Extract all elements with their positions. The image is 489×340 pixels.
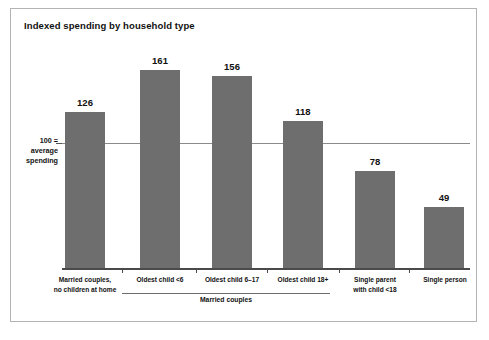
chart-screenshot: Indexed spending by household type 100 =… bbox=[0, 0, 489, 340]
category-label-line: Oldest child 6–17 bbox=[197, 275, 267, 285]
axis-tick bbox=[267, 268, 268, 273]
axis-tick bbox=[196, 268, 197, 273]
category-label-line: Married couples, bbox=[40, 275, 130, 285]
group-bracket-label: Married couples bbox=[122, 296, 330, 303]
category-label-line: Single person bbox=[410, 275, 480, 285]
group-bracket-line bbox=[122, 293, 330, 294]
category-label-oldest-child-under-6: Oldest child <6 bbox=[125, 275, 195, 285]
bar-value-label: 49 bbox=[424, 192, 464, 203]
category-label-line: Oldest child 18+ bbox=[268, 275, 338, 285]
axis-tick bbox=[122, 268, 123, 273]
axis-tick bbox=[409, 268, 410, 273]
bar-oldest-child-18-plus bbox=[283, 121, 323, 269]
category-label-oldest-child-6-17: Oldest child 6–17 bbox=[197, 275, 267, 285]
bar-oldest-child-6-17 bbox=[212, 76, 252, 268]
category-label-line: with child <18 bbox=[340, 285, 410, 295]
bar-value-label: 78 bbox=[355, 156, 395, 167]
category-label-line: Single parent bbox=[340, 275, 410, 285]
category-label-oldest-child-18-plus: Oldest child 18+ bbox=[268, 275, 338, 285]
category-label-single-person: Single person bbox=[410, 275, 480, 285]
category-label-married-no-children: Married couples, no children at home bbox=[40, 275, 130, 294]
category-label-line: no children at home bbox=[40, 285, 130, 295]
bar-value-label: 161 bbox=[140, 55, 180, 66]
bar-value-label: 156 bbox=[212, 61, 252, 72]
reference-line-label: 100 = average spending bbox=[14, 136, 58, 166]
bar-single-parent-child-under-18 bbox=[355, 171, 395, 269]
category-label-line: Oldest child <6 bbox=[125, 275, 195, 285]
plot-area: 100 = average spending 126 161 156 118 7… bbox=[0, 0, 489, 340]
bar-married-no-children bbox=[65, 112, 105, 269]
reference-label-line-2: average bbox=[14, 146, 58, 156]
category-label-single-parent: Single parent with child <18 bbox=[340, 275, 410, 294]
bar-oldest-child-under-6 bbox=[140, 70, 180, 268]
bar-value-label: 118 bbox=[283, 106, 323, 117]
axis-tick bbox=[339, 268, 340, 273]
bar-single-person bbox=[424, 207, 464, 268]
reference-label-line-3: spending bbox=[14, 156, 58, 166]
bar-value-label: 126 bbox=[65, 97, 105, 108]
reference-line-100 bbox=[62, 143, 470, 144]
reference-label-line-1: 100 = bbox=[14, 136, 58, 146]
